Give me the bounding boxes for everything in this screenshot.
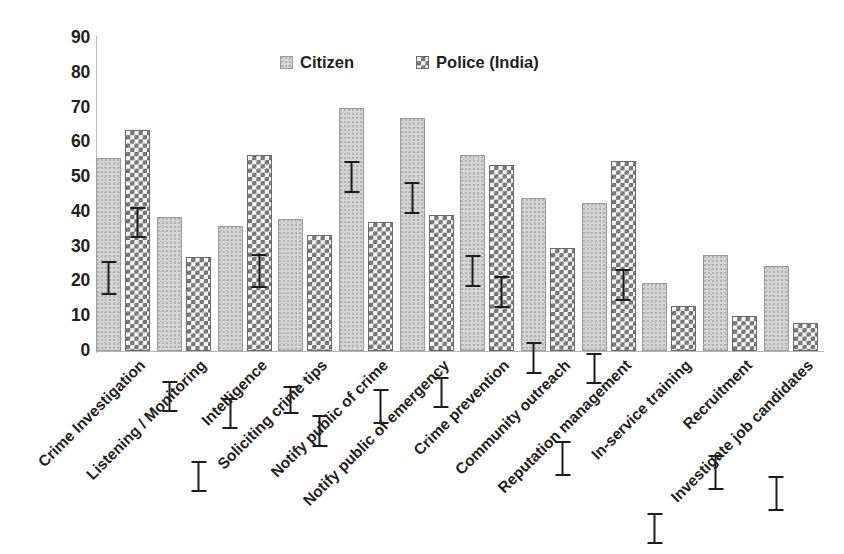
bar-group <box>96 38 150 351</box>
bar-slot <box>521 198 546 351</box>
bar-citizen <box>218 226 243 351</box>
bar-slot <box>732 316 757 351</box>
bar-slot <box>429 215 454 351</box>
y-axis-tick-labels: 9080706050403020100 <box>52 38 90 351</box>
bar-group <box>764 38 818 351</box>
bar-slot <box>157 217 182 351</box>
y-tick-label: 10 <box>52 307 90 325</box>
bar-slot <box>611 161 636 351</box>
bar-slot <box>489 165 514 351</box>
y-tick-label: 50 <box>52 168 90 186</box>
bar-slot <box>368 222 393 351</box>
bar-police-india <box>429 215 454 351</box>
grouped-bar-chart: 9080706050403020100 CitizenPolice (India… <box>0 0 844 554</box>
bar-slot <box>247 155 272 351</box>
bar-police-india <box>793 323 818 351</box>
bar-slot <box>582 203 607 351</box>
bar-citizen <box>642 283 667 351</box>
category-label: Notify public of crime <box>268 357 391 480</box>
bar-group <box>642 38 696 351</box>
bar-citizen <box>521 198 546 351</box>
bar-citizen <box>157 217 182 351</box>
category-label: Community outreach <box>452 357 573 478</box>
bar-citizen <box>339 108 364 351</box>
bar-citizen <box>703 255 728 351</box>
bar-group <box>521 38 575 351</box>
bar-police-india <box>307 235 332 352</box>
bar-slot <box>793 323 818 351</box>
bar-group <box>582 38 636 351</box>
bar-slot <box>278 219 303 351</box>
bar-group <box>339 38 393 351</box>
bar-group <box>460 38 514 351</box>
bar-slot <box>460 155 485 351</box>
bar-slot <box>186 257 211 351</box>
bar-police-india <box>550 248 575 351</box>
plot-area <box>96 38 824 351</box>
bar-police-india <box>368 222 393 351</box>
bar-police-india <box>125 130 150 351</box>
bar-police-india <box>247 155 272 351</box>
y-tick-label: 20 <box>52 273 90 291</box>
y-tick-label: 90 <box>52 29 90 47</box>
bar-slot <box>400 118 425 351</box>
bar-slot <box>550 248 575 351</box>
bar-group <box>278 38 332 351</box>
bar-slot <box>125 130 150 351</box>
y-tick-label: 30 <box>52 238 90 256</box>
bar-citizen <box>96 158 121 351</box>
category-label: Soliciting crime tips <box>215 357 330 472</box>
bar-slot <box>642 283 667 351</box>
bar-police-india <box>671 306 696 351</box>
bar-citizen <box>460 155 485 351</box>
y-tick-label: 80 <box>52 64 90 82</box>
bar-citizen <box>764 266 789 351</box>
bar-police-india <box>489 165 514 351</box>
bar-group <box>703 38 757 351</box>
bar-slot <box>671 306 696 351</box>
bar-police-india <box>611 161 636 351</box>
y-tick-label: 70 <box>52 99 90 117</box>
bar-slot <box>339 108 364 351</box>
bar-citizen <box>582 203 607 351</box>
bar-group <box>218 38 272 351</box>
bar-citizen <box>400 118 425 351</box>
bar-slot <box>307 235 332 352</box>
x-axis-category-labels: Crime InvestigationListening / Monitorin… <box>0 351 844 551</box>
bar-citizen <box>278 219 303 351</box>
y-tick-label: 40 <box>52 203 90 221</box>
bar-group <box>400 38 454 351</box>
bar-slot <box>703 255 728 351</box>
category-label: Listening / Monitoring <box>84 357 209 482</box>
bar-police-india <box>732 316 757 351</box>
category-label: Crime Investigation <box>36 357 149 470</box>
y-tick-label: 60 <box>52 134 90 152</box>
bar-police-india <box>186 257 211 351</box>
bar-slot <box>218 226 243 351</box>
bar-slot <box>764 266 789 351</box>
bar-group <box>157 38 211 351</box>
bar-slot <box>96 158 121 351</box>
